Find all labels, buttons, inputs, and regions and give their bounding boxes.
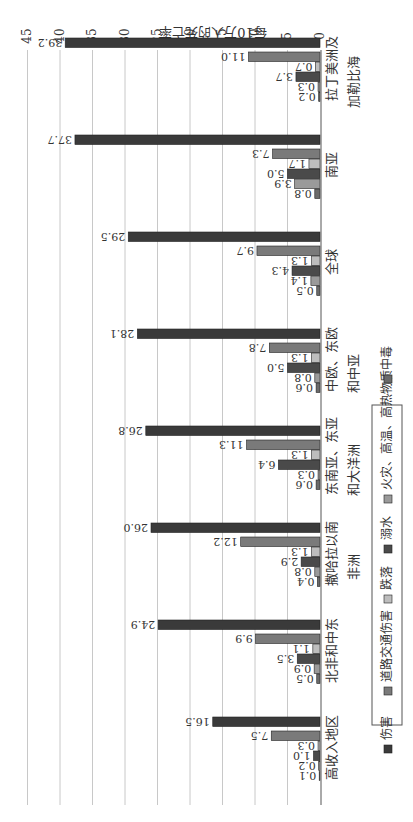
bar-value-label: 39.2 — [38, 36, 63, 49]
bar — [317, 577, 320, 587]
x-axis-category-labels: 拉丁美洲及加勒比海南亚全球中欧、东欧和中亚东南亚、东亚和大洋洲撒哈拉以南非洲北非… — [324, 36, 361, 780]
bar-group: 39.211.00.73.70.30.2 — [38, 36, 320, 103]
category-label: 全球 — [324, 249, 339, 275]
legend-label: 跌落 — [379, 566, 394, 590]
bar — [312, 547, 320, 557]
legend-swatch — [384, 375, 392, 383]
bar — [158, 620, 320, 630]
legend: 伤害道路交通伤害跌落溺水火灾、高温、高热物质中毒 — [372, 346, 402, 753]
bar-value-label: 37.7 — [47, 133, 72, 146]
bar — [316, 480, 320, 490]
category-label: 南亚 — [324, 152, 339, 178]
bar — [317, 674, 320, 684]
bar — [319, 761, 320, 771]
legend-label: 火灾、高温、高热物质 — [379, 370, 394, 490]
bar-value-label: 0.4 — [297, 575, 315, 588]
bar — [312, 450, 320, 460]
bar — [75, 135, 320, 145]
bar — [257, 246, 320, 256]
legend-label: 道路交通伤害 — [379, 610, 394, 682]
category-label: 和中亚 — [346, 354, 361, 393]
bar-value-label: 11.3 — [219, 438, 244, 451]
bar-value-label: 0.6 — [296, 478, 314, 491]
category-label: 中欧、东欧 — [324, 327, 339, 392]
bar — [151, 523, 320, 533]
bar-chart: 051015202530354045 每10万人的死亡率 39.211.00.7… — [0, 0, 413, 822]
bar-value-label: 3.7 — [275, 70, 293, 83]
bar-value-label: 0.5 — [296, 672, 314, 685]
bar-value-label: 16.5 — [185, 715, 210, 728]
bar-value-label: 3.5 — [277, 652, 295, 665]
legend-swatch — [384, 687, 392, 695]
bar — [318, 741, 320, 751]
bar-value-label: 12.2 — [213, 535, 238, 548]
legend-swatch — [384, 545, 392, 553]
bar-value-label: 4.3 — [272, 264, 290, 277]
bar-value-label: 7.8 — [249, 341, 266, 354]
bar-group: 26.811.31.36.40.30.6 — [118, 424, 320, 491]
bar — [312, 353, 320, 363]
bar — [65, 38, 320, 48]
bar — [315, 567, 320, 577]
bar-value-label: 9.7 — [236, 244, 254, 257]
bar — [318, 82, 320, 92]
legend-label: 溺水 — [380, 516, 394, 540]
bar-value-label: 24.9 — [131, 618, 156, 631]
bar-value-label: 0.7 — [295, 60, 313, 73]
category-label: 北非和中东 — [324, 618, 339, 683]
bar-value-label: 1.3 — [291, 351, 309, 364]
bar — [315, 373, 320, 383]
bar-value-label: 29.5 — [101, 230, 126, 243]
bar-value-label: 7.5 — [251, 729, 269, 742]
bar-value-label: 5.0 — [267, 361, 285, 374]
category-label: 加勒比海 — [346, 56, 361, 108]
bar — [137, 329, 320, 339]
bar-value-label: 0.5 — [296, 284, 314, 297]
bar-series: 39.211.00.73.70.30.237.77.31.75.03.90.82… — [38, 36, 320, 782]
category-label: 东南亚、东亚 — [324, 417, 339, 495]
bar-value-label: 0.6 — [296, 381, 314, 394]
bar — [128, 232, 320, 242]
bar-value-label: 26.8 — [118, 424, 143, 437]
bar-value-label: 9.9 — [235, 632, 253, 645]
bar-value-label: 28.1 — [110, 327, 135, 340]
bar — [319, 92, 320, 102]
bar — [317, 286, 320, 296]
bar — [309, 159, 320, 169]
bar — [312, 256, 320, 266]
bar — [318, 470, 320, 480]
bar-value-label: 6.4 — [258, 458, 276, 471]
category-label: 撒哈拉以南 — [324, 521, 339, 586]
bar-group: 16.57.50.31.00.20.1 — [185, 715, 320, 782]
bar-value-label: 1.7 — [288, 157, 306, 170]
bar — [314, 664, 320, 674]
bar-value-label: 26.0 — [124, 521, 149, 534]
bar-group: 24.99.91.13.50.90.5 — [131, 618, 320, 685]
bar-value-label: 0.1 — [299, 769, 317, 782]
legend-swatch — [384, 745, 392, 753]
bar — [319, 771, 320, 781]
bar-value-label: 1.3 — [291, 448, 309, 461]
bar-value-label: 11.0 — [221, 50, 246, 63]
bar — [315, 62, 320, 72]
legend-swatch — [384, 495, 392, 503]
category-label: 非洲 — [346, 554, 361, 580]
chart-stage: 051015202530354045 每10万人的死亡率 39.211.00.7… — [0, 0, 413, 822]
category-label: 和大洋洲 — [346, 444, 361, 496]
bar-value-label: 3.9 — [274, 177, 292, 190]
bar — [146, 426, 320, 436]
legend-swatch — [384, 595, 392, 603]
bar — [316, 383, 320, 393]
bar-group: 26.012.21.32.90.80.4 — [124, 521, 321, 588]
legend-label: 伤害 — [379, 716, 394, 740]
bar-value-label: 0.8 — [294, 187, 312, 200]
bar-value-label: 7.3 — [252, 147, 269, 160]
bar — [315, 189, 320, 199]
bar-group: 37.77.31.75.03.90.8 — [47, 133, 320, 200]
bar-group: 28.17.81.35.00.80.6 — [110, 327, 320, 394]
category-label: 拉丁美洲及 — [324, 36, 339, 101]
bar-value-label: 1.3 — [291, 254, 309, 267]
bar-value-label: 0.2 — [298, 90, 316, 103]
bar — [313, 644, 320, 654]
bar — [213, 717, 320, 727]
